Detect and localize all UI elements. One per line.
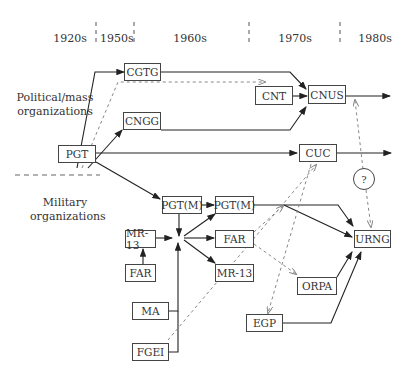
node-far-1960s[interactable]: FAR [215,230,254,248]
node-urng[interactable]: URNG [354,230,391,248]
era-label-1960s: 1960s [170,32,210,45]
node-cgtg[interactable]: CGTG [124,63,161,81]
node-cnus[interactable]: CNUS [308,85,346,104]
era-label-1950s: 1950s [100,32,132,45]
node-far-1950s[interactable]: FAR [125,264,156,282]
node-mr13-1960s[interactable]: MR-13 [215,264,254,282]
node-cngg[interactable]: CNGG [123,112,161,130]
node-orpa[interactable]: ORPA [297,277,337,295]
node-unknown[interactable]: ? [353,168,375,190]
node-egp[interactable]: EGP [246,314,283,332]
node-cnt[interactable]: CNT [255,86,293,105]
diagram-canvas [0,0,415,380]
node-pgt-m-1960s[interactable]: PGT(M) [215,196,254,214]
node-mr13-1950s[interactable]: MR-13 [125,230,156,248]
group-label-political: Political/mass organizations [5,91,105,119]
era-label-1920s: 1920s [50,32,90,45]
era-label-1970s: 1970s [275,32,315,45]
era-label-1980s: 1980s [355,32,395,45]
node-cuc[interactable]: CUC [299,144,337,162]
node-fgei[interactable]: FGEI [132,343,169,361]
node-pgt[interactable]: PGT [58,145,96,163]
group-label-military: Military organizations [30,196,100,224]
node-pgt-m-1950s[interactable]: PGT(M) [162,196,202,214]
node-ma[interactable]: MA [132,302,169,320]
